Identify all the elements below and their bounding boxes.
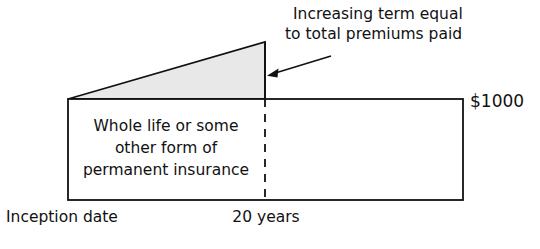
axis-label-twenty-years: 20 years	[232, 208, 299, 226]
increasing-term-triangle	[68, 42, 265, 99]
callout-line-2: to total premiums paid	[285, 25, 462, 43]
callout-arrow-icon	[267, 56, 331, 78]
face-value-label: $1000	[470, 91, 524, 111]
insurance-diagram: Increasing term equal to total premiums …	[0, 0, 540, 249]
callout-line-1: Increasing term equal	[293, 5, 463, 23]
permanent-block-line-1: Whole life or some	[94, 117, 239, 135]
axis-label-inception-date: Inception date	[6, 208, 118, 226]
permanent-block-line-2: other form of	[115, 139, 218, 157]
permanent-block-line-3: permanent insurance	[83, 161, 249, 179]
diagram-canvas: Increasing term equal to total premiums …	[0, 0, 540, 249]
